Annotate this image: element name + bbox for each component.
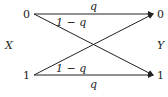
input-label: X <box>4 39 14 52</box>
edge-label-0-to-1: 1 − q <box>56 16 86 29</box>
output-node-0: 0 <box>157 8 164 21</box>
edge-label-1-to-1: q <box>90 78 97 91</box>
binary-channel-diagram: 0 1 0 1 X Y q 1 − q 1 − q q <box>0 0 168 97</box>
output-label: Y <box>157 39 166 52</box>
output-node-1: 1 <box>157 69 164 82</box>
edge-label-1-to-0: 1 − q <box>56 62 86 75</box>
input-node-0: 0 <box>23 8 30 21</box>
input-node-1: 1 <box>23 69 30 82</box>
edge-label-0-to-0: q <box>90 0 97 13</box>
edges <box>34 14 153 75</box>
